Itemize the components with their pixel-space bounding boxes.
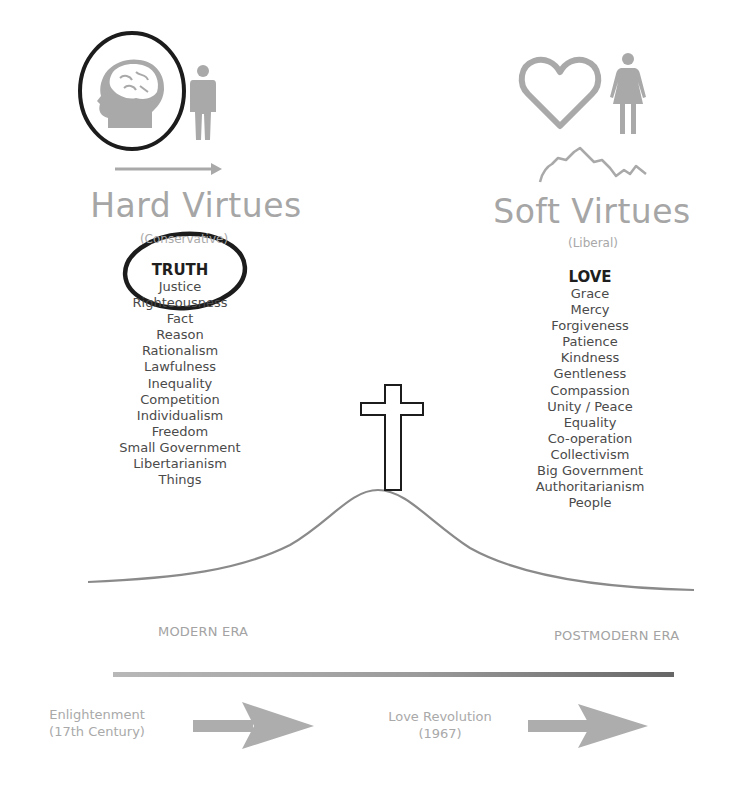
brain-head-icon — [97, 59, 164, 128]
list-item: Big Government — [505, 463, 675, 479]
soft-virtues-list: LOVE Grace Mercy Forgiveness Patience Ki… — [505, 268, 675, 511]
virtue-truth: TRUTH — [90, 261, 270, 279]
list-item: Co-operation — [505, 431, 675, 447]
list-item: Gentleness — [505, 366, 675, 382]
event-date: (1967) — [380, 725, 500, 742]
list-item: Lawfulness — [90, 359, 270, 375]
list-item: Libertarianism — [90, 456, 270, 472]
list-item: Freedom — [90, 424, 270, 440]
list-item: Rationalism — [90, 343, 270, 359]
list-item: Unity / Peace — [505, 399, 675, 415]
cross-icon — [361, 385, 423, 490]
list-item: Patience — [505, 334, 675, 350]
timeline-event-enlightenment: Enlightenment (17th Century) — [42, 706, 152, 740]
list-item: People — [505, 495, 675, 511]
list-item: Mercy — [505, 302, 675, 318]
postmodern-era-label: POSTMODERN ERA — [554, 628, 679, 643]
list-item: Individualism — [90, 408, 270, 424]
event-name: Enlightenment — [42, 706, 152, 723]
heart-icon — [522, 60, 599, 126]
event-name: Love Revolution — [380, 708, 500, 725]
list-item: Collectivism — [505, 447, 675, 463]
hard-virtues-list: TRUTH Justice Righteousness Fact Reason … — [90, 261, 270, 488]
list-item: Kindness — [505, 350, 675, 366]
list-item: Forgiveness — [505, 318, 675, 334]
hard-virtues-title: Hard Virtues — [82, 186, 310, 225]
virtue-love: LOVE — [505, 268, 675, 286]
hard-virtues-subtitle: (Conservative) — [130, 232, 238, 246]
man-icon — [190, 65, 216, 140]
event-date: (17th Century) — [42, 723, 152, 740]
soft-virtues-title: Soft Virtues — [486, 192, 698, 231]
right-arrow-icon — [115, 163, 222, 175]
list-item: Inequality — [90, 376, 270, 392]
list-item: Justice — [90, 279, 270, 295]
timeline-arrow-1 — [193, 702, 314, 749]
list-item: Things — [90, 472, 270, 488]
list-item: Reason — [90, 327, 270, 343]
squiggle-line-icon — [540, 148, 646, 182]
timeline-event-love-revolution: Love Revolution (1967) — [380, 708, 500, 742]
timeline-bar — [113, 672, 674, 677]
woman-icon — [610, 53, 646, 134]
list-item: Small Government — [90, 440, 270, 456]
list-item: Authoritarianism — [505, 479, 675, 495]
list-item: Compassion — [505, 383, 675, 399]
list-item: Grace — [505, 286, 675, 302]
list-item: Equality — [505, 415, 675, 431]
soft-virtues-subtitle: (Liberal) — [550, 236, 636, 250]
modern-era-label: MODERN ERA — [158, 624, 248, 639]
list-item: Fact — [90, 311, 270, 327]
list-item: Competition — [90, 392, 270, 408]
timeline-arrow-2 — [528, 704, 648, 748]
list-item: Righteousness — [90, 295, 270, 311]
